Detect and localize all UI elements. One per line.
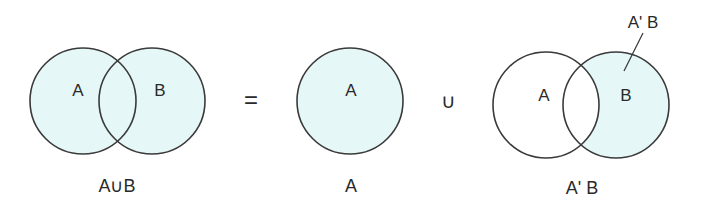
- union-caption: A∪B: [98, 176, 135, 196]
- equals-operator: =: [244, 86, 258, 113]
- difference-caption: A' B: [566, 178, 598, 198]
- difference-label-b: B: [620, 86, 631, 105]
- callout-label: A' B: [628, 13, 659, 32]
- set-a-caption: A: [345, 176, 357, 196]
- union-operator: ∪: [441, 90, 456, 112]
- set-a-label: A: [345, 81, 357, 100]
- set-union-diagram: A B A∪B = A A ∪ A B A' B A' B: [0, 0, 703, 213]
- union-label-a: A: [72, 81, 84, 100]
- set-a-circle: [297, 48, 403, 154]
- difference-label-a: A: [538, 86, 550, 105]
- difference-circle-a: [493, 52, 599, 158]
- union-venn: A B A∪B: [30, 48, 205, 196]
- union-label-b: B: [154, 81, 165, 100]
- set-a-venn: A A: [297, 48, 403, 196]
- difference-venn: A B A' B A' B: [493, 13, 669, 198]
